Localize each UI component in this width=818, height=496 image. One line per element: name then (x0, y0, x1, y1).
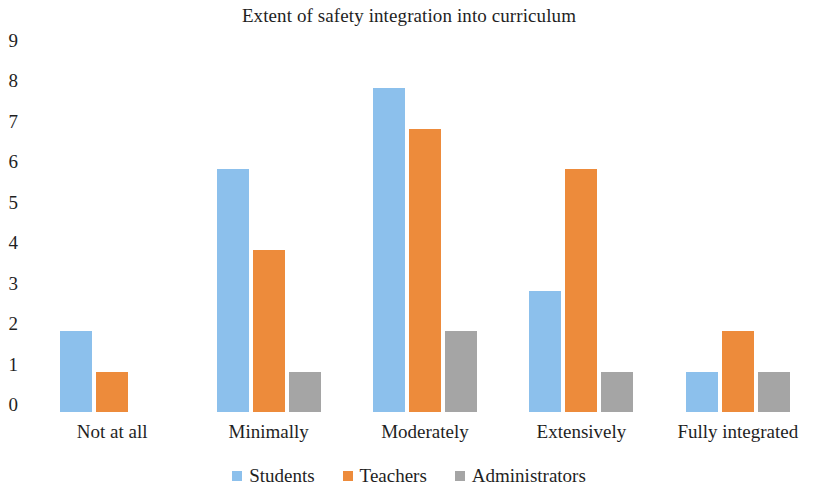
legend-item[interactable]: Teachers (343, 466, 427, 486)
legend-item[interactable]: Students (232, 466, 314, 486)
bar[interactable] (60, 331, 92, 412)
y-axis-tick-label: 9 (9, 31, 19, 50)
bar[interactable] (373, 88, 405, 412)
legend-label: Teachers (360, 466, 427, 486)
bar[interactable] (565, 169, 597, 412)
bar-group (190, 48, 346, 412)
y-axis-tick-label: 2 (9, 314, 19, 333)
bar[interactable] (758, 372, 790, 412)
bar[interactable] (409, 129, 441, 412)
bar-group (503, 48, 659, 412)
y-axis-tick-label: 7 (9, 111, 19, 130)
bar[interactable] (722, 331, 754, 412)
legend-label: Administrators (472, 466, 586, 486)
legend-swatch-icon (455, 471, 465, 481)
chart-title: Extent of safety integration into curric… (0, 4, 818, 28)
plot-area (34, 48, 816, 412)
bar[interactable] (289, 372, 321, 412)
bar[interactable] (445, 331, 477, 412)
bar[interactable] (686, 372, 718, 412)
bar[interactable] (601, 372, 633, 412)
x-axis: Not at allMinimallyModeratelyExtensively… (34, 420, 816, 450)
legend-swatch-icon (232, 471, 242, 481)
y-axis-tick-label: 3 (9, 273, 19, 292)
bar[interactable] (217, 169, 249, 412)
bar[interactable] (96, 372, 128, 412)
bar[interactable] (253, 250, 285, 412)
y-axis-tick-label: 1 (9, 354, 19, 373)
x-axis-tick-label: Minimally (190, 420, 346, 450)
y-axis-tick-label: 0 (9, 395, 19, 414)
x-axis-tick-label: Fully integrated (660, 420, 816, 450)
x-axis-tick-label: Extensively (503, 420, 659, 450)
x-axis-tick-label: Not at all (34, 420, 190, 450)
y-axis: 9876543210 (0, 40, 26, 420)
bar[interactable] (529, 291, 561, 412)
legend-label: Students (249, 466, 314, 486)
y-axis-tick-label: 6 (9, 152, 19, 171)
y-axis-tick-label: 8 (9, 71, 19, 90)
legend-item[interactable]: Administrators (455, 466, 586, 486)
bar-group (34, 48, 190, 412)
bar-group (660, 48, 816, 412)
chart-legend: StudentsTeachersAdministrators (0, 466, 818, 486)
y-axis-tick-label: 4 (9, 233, 19, 252)
bar-group (347, 48, 503, 412)
y-axis-tick-label: 5 (9, 192, 19, 211)
x-axis-tick-label: Moderately (347, 420, 503, 450)
legend-swatch-icon (343, 471, 353, 481)
bar-chart: Extent of safety integration into curric… (0, 0, 818, 496)
